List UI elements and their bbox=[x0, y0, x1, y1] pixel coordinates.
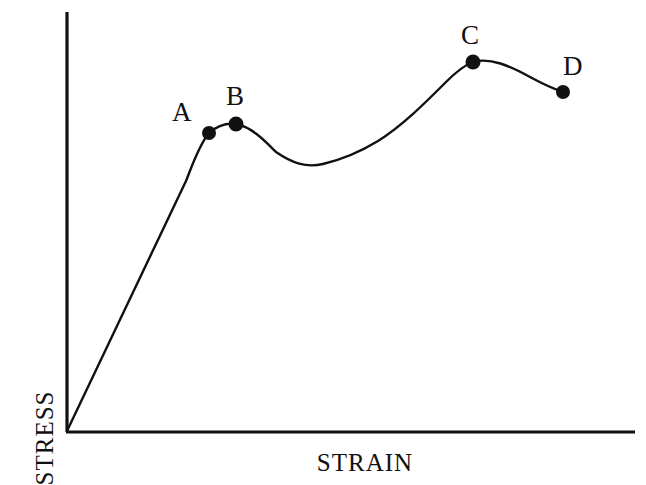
stress-strain-curve bbox=[67, 61, 563, 431]
stress-strain-figure: STRESS STRAIN A B C D bbox=[0, 0, 646, 485]
data-point-label-a: A bbox=[172, 99, 192, 126]
data-point-d-marker bbox=[556, 85, 570, 99]
data-point-label-b: B bbox=[226, 83, 244, 110]
data-point-label-c: C bbox=[461, 22, 479, 49]
data-point-a-marker bbox=[202, 126, 216, 140]
y-axis-label: STRESS bbox=[32, 338, 57, 485]
stress-strain-plot bbox=[0, 0, 646, 485]
data-point-label-d: D bbox=[563, 53, 583, 80]
x-axis-label: STRAIN bbox=[317, 450, 413, 475]
data-point-c-marker bbox=[466, 55, 481, 70]
data-point-b-marker bbox=[229, 117, 244, 132]
